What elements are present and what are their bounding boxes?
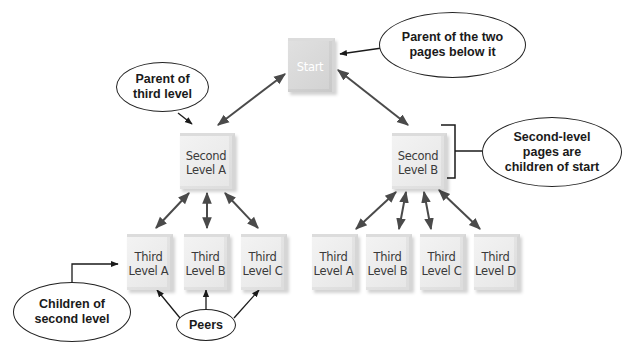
node-label-line1: Second xyxy=(398,149,439,163)
callout-parent-of-two: Parent of the two pages below it xyxy=(379,12,526,78)
node-label-line2: Level A xyxy=(314,264,354,278)
node-third-level-b-right: Third Level B xyxy=(366,234,412,290)
node-label-line2: Level A xyxy=(186,163,227,177)
node-label-line1: Third xyxy=(129,250,169,264)
node-label-line1: Third xyxy=(422,250,462,264)
hierarchy-diagram: Start Second Level A Second Level B Thir… xyxy=(0,0,631,355)
callout-text-line3: children of start xyxy=(505,160,599,175)
node-second-level-b: Second Level B xyxy=(392,133,447,189)
node-third-level-c-left: Third Level C xyxy=(241,234,287,290)
node-second-level-a: Second Level A xyxy=(180,133,235,189)
node-label-line1: Third xyxy=(243,250,283,264)
callout-text-line2: second level xyxy=(34,312,109,327)
node-label-line2: Level D xyxy=(475,264,516,278)
node-label-line1: Third xyxy=(475,250,516,264)
node-label-line2: Level C xyxy=(243,264,283,278)
node-third-level-c-right: Third Level C xyxy=(420,234,466,290)
node-label-line2: Level C xyxy=(422,264,462,278)
callout-text-line1: Parent of the two xyxy=(402,30,503,45)
callout-parent-of-third-level: Parent of third level xyxy=(116,62,209,112)
node-label-line1: Third xyxy=(314,250,354,264)
node-third-level-a-left: Third Level A xyxy=(127,234,173,290)
callout-text-line2: pages are xyxy=(505,145,599,160)
node-label-line1: Second xyxy=(186,149,227,163)
node-third-level-b-left: Third Level B xyxy=(184,234,230,290)
arrow-start-second-b xyxy=(338,70,408,125)
callout-text-line1: Children of xyxy=(34,297,109,312)
callout-peers: Peers xyxy=(176,309,236,341)
node-label-line2: Level A xyxy=(129,264,169,278)
callout-text-line2: third level xyxy=(133,87,192,102)
node-third-level-a-right: Third Level A xyxy=(312,234,358,290)
callout-text: Peers xyxy=(189,318,223,333)
node-start-label: Start xyxy=(297,60,324,74)
node-third-level-d-right: Third Level D xyxy=(474,234,520,290)
arrow-start-second-a xyxy=(218,74,285,125)
callout-text-line1: Second-level xyxy=(505,130,599,145)
node-label-line1: Third xyxy=(186,250,226,264)
callout-second-level-children: Second-level pages are children of start xyxy=(482,117,622,187)
node-label-line2: Level B xyxy=(186,264,226,278)
node-label-line1: Third xyxy=(368,250,408,264)
callout-text-line1: Parent of xyxy=(133,72,192,87)
callout-text-line2: pages below it xyxy=(402,45,503,60)
node-label-line2: Level B xyxy=(368,264,408,278)
node-label-line2: Level B xyxy=(398,163,439,177)
callout-children-of-second-level: Children of second level xyxy=(13,282,131,342)
node-start: Start xyxy=(288,38,335,92)
